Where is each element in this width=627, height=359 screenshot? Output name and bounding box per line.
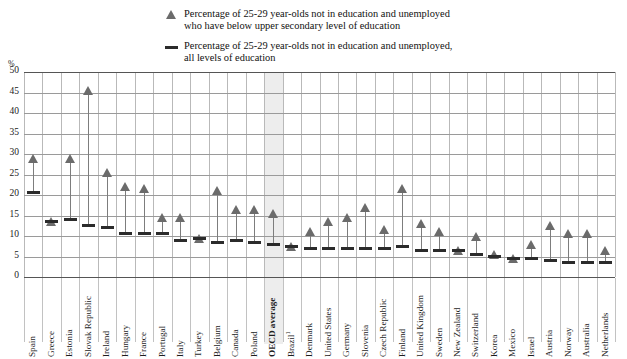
x-axis-tick-label: Ireland: [101, 331, 111, 357]
triangle-marker: [471, 232, 481, 241]
dash-marker: [433, 249, 446, 252]
dash-marker: [64, 218, 77, 221]
y-axis-tick-label: 45: [10, 86, 20, 96]
y-axis-tick-label: 0: [14, 270, 19, 280]
x-axis-tick-label: Slovak Republic: [83, 296, 93, 357]
legend-triangle-line1: Percentage of 25-29 year-olds not in edu…: [184, 8, 450, 20]
x-axis-tick-labels: SpainGreeceEstoniaSlovak RepublicIreland…: [24, 278, 615, 359]
footnote-marker: 1: [284, 331, 291, 334]
triangle-marker: [600, 246, 610, 255]
x-axis-tick-label: Germany: [341, 323, 351, 357]
triangle-marker: [120, 182, 130, 191]
triangle-marker: [545, 221, 555, 230]
x-axis-tick-label: Slovenia: [360, 325, 370, 357]
gridline: [24, 113, 615, 114]
triangle-marker: [360, 203, 370, 212]
y-axis-tick-label: 20: [10, 188, 20, 198]
y-axis-tick-label: 15: [10, 209, 20, 219]
label-separator: [153, 278, 154, 342]
dash-marker: [470, 253, 483, 256]
chart-legend: Percentage of 25-29 year-olds not in edu…: [164, 8, 594, 72]
triangle-marker: [526, 240, 536, 249]
x-axis-tick-label: United Kingdom: [415, 295, 425, 357]
connector-stem: [273, 213, 274, 244]
dash-marker: [507, 257, 520, 260]
dash-marker: [248, 241, 261, 244]
dash-marker: [119, 232, 132, 235]
label-separator: [375, 278, 376, 342]
connector-stem: [33, 158, 34, 193]
label-separator: [467, 278, 468, 342]
label-separator: [560, 278, 561, 342]
x-axis-tick-label: Netherlands: [600, 313, 610, 357]
dash-marker: [230, 239, 243, 242]
label-separator: [98, 278, 99, 342]
label-separator: [227, 278, 228, 342]
y-axis-tick-label: 25: [10, 168, 20, 178]
dash-marker: [415, 249, 428, 252]
label-separator: [209, 278, 210, 342]
dash-marker: [488, 255, 501, 258]
triangle-marker: [582, 229, 592, 238]
y-axis-tick-label: 30: [10, 147, 20, 157]
y-axis-tick-label: 35: [10, 127, 20, 137]
x-axis-tick-label: Israel: [526, 337, 536, 357]
triangle-marker-icon: [164, 8, 184, 22]
x-axis-tick-label: Finland: [397, 329, 407, 357]
dash-marker: [378, 247, 391, 250]
connector-stem: [144, 189, 145, 234]
label-separator: [24, 278, 25, 342]
dash-marker: [359, 247, 372, 250]
dash-marker: [27, 191, 40, 194]
x-axis-tick-label: Belgium: [212, 325, 222, 357]
x-axis-tick-label: Brazil1: [283, 331, 296, 357]
x-axis-tick-label: Poland: [249, 331, 259, 357]
legend-entry-dash: Percentage of 25-29 year-olds not in edu…: [164, 40, 594, 65]
legend-dash-line2: all levels of education: [184, 52, 452, 64]
x-axis-tick-label: Switzerland: [470, 313, 480, 357]
dash-marker: [267, 243, 280, 246]
connector-stem: [254, 209, 255, 242]
dash-marker: [341, 247, 354, 250]
gridline: [24, 154, 615, 155]
y-axis-tick-labels: 05101520253035404550: [0, 72, 21, 277]
label-separator: [523, 278, 524, 342]
dash-marker: [138, 232, 151, 235]
dash-marker: [174, 239, 187, 242]
label-separator: [412, 278, 413, 342]
label-separator: [541, 278, 542, 342]
x-axis-tick-label: Turkey: [193, 331, 203, 357]
triangle-marker: [249, 205, 259, 214]
legend-triangle-line2: who have below upper secondary level of …: [184, 20, 450, 32]
y-axis-tick-label: 5: [14, 250, 19, 260]
x-axis-tick-label: Korea: [489, 335, 499, 357]
y-axis-tick-label: 40: [10, 106, 20, 116]
label-separator: [320, 278, 321, 342]
y-axis-tick-label: 50: [10, 65, 20, 75]
label-separator: [393, 278, 394, 342]
x-axis-tick-label: Greece: [46, 331, 56, 357]
x-axis-tick-label: Portugal: [157, 326, 167, 357]
label-separator: [42, 278, 43, 342]
dash-marker: [193, 237, 206, 240]
gridline: [24, 72, 615, 73]
x-axis-tick-label: Denmark: [304, 323, 314, 357]
dash-marker: [156, 232, 169, 235]
gridline: [24, 175, 615, 176]
legend-dash-line1: Percentage of 25-29 year-olds not in edu…: [184, 40, 452, 52]
connector-stem: [125, 187, 126, 234]
triangle-marker: [231, 205, 241, 214]
dash-marker: [101, 226, 114, 229]
triangle-marker: [416, 219, 426, 228]
label-separator: [430, 278, 431, 342]
x-axis-tick-label: Norway: [563, 327, 573, 357]
gridline: [24, 216, 615, 217]
triangle-marker: [268, 209, 278, 218]
dash-marker: [304, 247, 317, 250]
triangle-marker: [83, 86, 93, 95]
dash-marker: [211, 241, 224, 244]
label-separator: [486, 278, 487, 342]
label-separator: [246, 278, 247, 342]
dash-marker: [599, 261, 612, 264]
connector-stem: [365, 207, 366, 248]
